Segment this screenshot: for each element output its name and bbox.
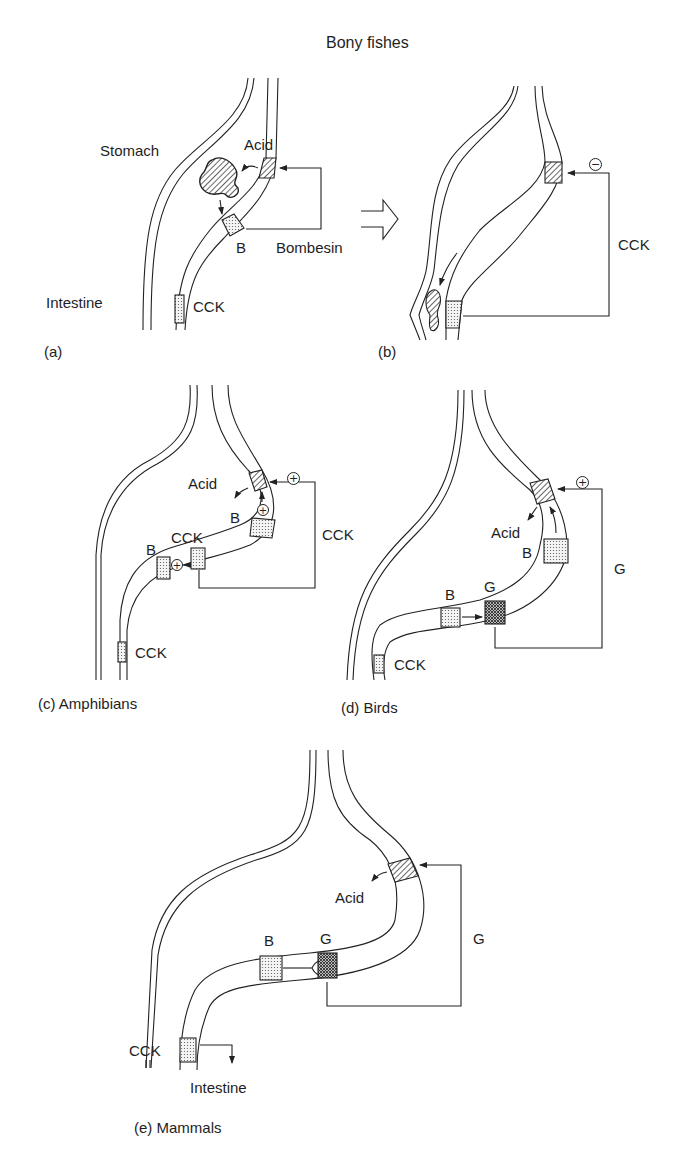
- panel-d-drawing: [347, 390, 602, 680]
- label-cck: CCK: [129, 1043, 161, 1058]
- stimulation-sign-icon: +: [171, 559, 183, 571]
- caption-panel-e: (e) Mammals: [134, 1120, 222, 1135]
- label-acid: Acid: [491, 525, 520, 540]
- panel-a-drawing: [143, 78, 321, 330]
- label-b-lower: B: [445, 587, 455, 602]
- label-stomach: Stomach: [100, 143, 159, 158]
- label-g-cell: G: [484, 579, 496, 594]
- label-acid: Acid: [188, 476, 217, 491]
- gastrin-cck-evolution-figure: Bony fishes Stomach Acid B Bombesin Inte…: [0, 0, 686, 1172]
- transition-arrow-icon: [361, 200, 398, 239]
- label-cck-mid: CCK: [171, 530, 203, 545]
- panel-c-drawing: [96, 385, 315, 680]
- stimulation-sign-icon: +: [257, 504, 269, 516]
- label-b-cell: B: [236, 240, 246, 255]
- stimulation-sign-icon: +: [576, 476, 589, 489]
- label-acid: Acid: [244, 137, 273, 152]
- label-cck-low: CCK: [394, 657, 426, 672]
- caption-panel-b: (b): [378, 344, 396, 359]
- label-g-pathway: G: [614, 561, 626, 576]
- label-cck-low: CCK: [135, 645, 167, 660]
- figure-title: Bony fishes: [326, 35, 409, 51]
- panel-b-drawing: [410, 86, 609, 340]
- label-cck-pathway: CCK: [322, 527, 354, 542]
- caption-panel-d: (d) Birds: [341, 700, 398, 715]
- inhibition-sign-icon: −: [589, 158, 602, 171]
- label-b-cell: B: [264, 933, 274, 948]
- label-acid: Acid: [335, 890, 364, 905]
- label-intestine: Intestine: [46, 295, 103, 310]
- caption-panel-a: (a): [44, 344, 62, 359]
- label-b-upper: B: [522, 545, 532, 560]
- caption-panel-c: (c) Amphibians: [38, 696, 137, 711]
- label-g-pathway: G: [473, 931, 485, 946]
- label-intestine: Intestine: [190, 1080, 247, 1095]
- stimulation-sign-icon: +: [287, 472, 300, 485]
- label-bombesin: Bombesin: [276, 240, 343, 255]
- panel-e-drawing: [146, 750, 461, 1070]
- label-cck: CCK: [193, 299, 225, 314]
- label-cck-pathway: CCK: [618, 237, 650, 252]
- label-b-lower: B: [146, 542, 156, 557]
- label-b-upper: B: [230, 510, 240, 525]
- label-g-cell: G: [320, 931, 332, 946]
- diagram-drawing: [0, 0, 686, 1172]
